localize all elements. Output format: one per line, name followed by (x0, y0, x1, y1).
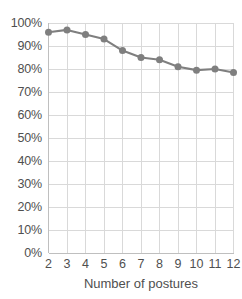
y-axis-tick-label: 90% (0, 40, 42, 53)
y-axis-tick-label: 70% (0, 86, 42, 99)
x-axis-title: Number of postures (48, 277, 234, 290)
data-point-marker (230, 69, 237, 76)
y-axis-tick-label: 40% (0, 155, 42, 168)
y-axis-tick-label: 60% (0, 109, 42, 122)
y-axis-tick-label: 20% (0, 201, 42, 214)
data-point-marker (193, 67, 200, 74)
chart-container: 0%10%20%30%40%50%60%70%80%90%100% 234567… (0, 0, 241, 299)
y-axis-tick-label: 10% (0, 224, 42, 237)
y-axis-tick-label: 100% (0, 17, 42, 30)
data-point-marker (119, 47, 126, 54)
data-point-marker (101, 36, 108, 43)
y-axis-tick-label: 50% (0, 132, 42, 145)
data-point-marker (156, 56, 163, 63)
y-axis-tick-label: 0% (0, 247, 42, 260)
data-point-marker (175, 63, 182, 70)
y-axis-tick-label: 30% (0, 178, 42, 191)
data-point-marker (45, 29, 52, 36)
data-point-marker (212, 66, 219, 73)
data-point-marker (82, 31, 89, 38)
data-point-marker (64, 26, 71, 33)
x-axis-tick-label: 12 (223, 258, 242, 271)
y-axis-tick-label: 80% (0, 63, 42, 76)
data-point-marker (138, 54, 145, 61)
